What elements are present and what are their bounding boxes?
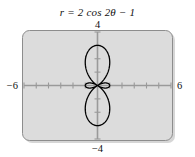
- plot-svg: 4 −4 −6 6: [0, 0, 195, 157]
- axis-label-top: 4: [95, 19, 101, 30]
- axis-label-right: 6: [177, 80, 182, 91]
- axis-label-left: −6: [7, 80, 18, 91]
- axis-label-bottom: −4: [92, 143, 104, 154]
- figure-container: r = 2 cos 2θ − 1: [0, 0, 195, 157]
- polar-plot: 4 −4 −6 6: [0, 0, 195, 157]
